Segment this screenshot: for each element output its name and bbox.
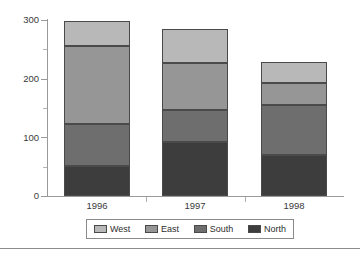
- x-tick-divider-1: [146, 197, 147, 202]
- chart-figure: 300 200 100 0: [0, 0, 360, 257]
- legend-label-south: South: [210, 224, 234, 234]
- legend-item-east[interactable]: East: [145, 224, 179, 234]
- x-tick-divider-2: [245, 197, 246, 202]
- legend-swatch-north-icon: [248, 225, 261, 233]
- x-axis-label-1996: 1996: [67, 200, 127, 212]
- bar-segment-1997-south[interactable]: [162, 110, 228, 142]
- bar-segment-1998-east[interactable]: [261, 83, 327, 105]
- legend-label-west: West: [110, 224, 130, 234]
- legend-swatch-west-icon: [94, 225, 107, 233]
- bar-segment-1996-east[interactable]: [64, 46, 130, 124]
- bar-segment-1996-west[interactable]: [64, 21, 130, 46]
- x-axis-label-1997: 1997: [165, 200, 225, 212]
- bar-segment-1997-east[interactable]: [162, 63, 228, 110]
- bar-segment-1996-south[interactable]: [64, 124, 130, 166]
- bar-segment-1997-west[interactable]: [162, 29, 228, 63]
- bars-layer: [0, 0, 360, 196]
- bar-segment-1998-west[interactable]: [261, 62, 327, 83]
- bar-segment-1996-north[interactable]: [64, 166, 130, 196]
- legend-item-west[interactable]: West: [94, 224, 130, 234]
- plot-area: 300 200 100 0: [0, 0, 360, 215]
- x-axis-line: [47, 196, 344, 197]
- legend-item-north[interactable]: North: [248, 224, 286, 234]
- bar-segment-1998-south[interactable]: [261, 105, 327, 155]
- legend-swatch-south-icon: [194, 225, 207, 233]
- legend-swatch-east-icon: [145, 225, 158, 233]
- y-tick-0: [41, 196, 47, 197]
- bar-segment-1998-north[interactable]: [261, 155, 327, 196]
- legend-label-east: East: [161, 224, 179, 234]
- x-axis-label-1998: 1998: [264, 200, 324, 212]
- figure-bottom-rule: [0, 248, 360, 249]
- bar-segment-1997-north[interactable]: [162, 142, 228, 196]
- chart-legend: West East South North: [86, 219, 294, 239]
- legend-item-south[interactable]: South: [194, 224, 234, 234]
- legend-label-north: North: [264, 224, 286, 234]
